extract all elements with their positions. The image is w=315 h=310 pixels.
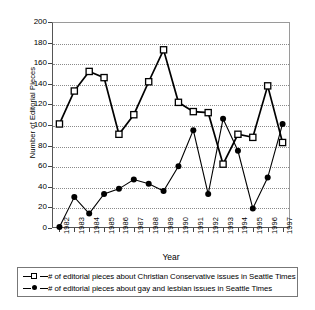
x-axis-tick-label: 1988	[152, 217, 160, 234]
filled-circle-marker-icon	[22, 282, 48, 294]
gridline	[53, 147, 289, 148]
y-axis-tick	[48, 166, 52, 167]
x-axis-tick-label: 1995	[256, 217, 264, 234]
y-axis-tick	[48, 125, 52, 126]
y-axis-tick	[48, 228, 52, 229]
y-axis-tick	[48, 22, 52, 23]
x-axis-tick-label: 1985	[108, 217, 116, 234]
gridline	[53, 208, 289, 209]
y-axis-tick-label: 200	[7, 18, 47, 26]
plot-area	[52, 22, 290, 228]
x-axis-tick	[238, 228, 239, 232]
gridline	[53, 167, 289, 168]
x-axis-tick	[283, 228, 284, 232]
y-axis-tick-label: 60	[7, 162, 47, 170]
editorial-pieces-line-chart: Number of Editorial Pieces 2001801601401…	[0, 0, 315, 310]
x-axis-tick-label: 1994	[241, 217, 249, 234]
legend-item-gay-lesbian: # of editorial pieces about gay and lesb…	[22, 282, 293, 294]
x-axis-tick-label: 1989	[167, 217, 175, 234]
x-axis-tick	[208, 228, 209, 232]
x-axis-tick-label: 1987	[137, 217, 145, 234]
x-axis-tick-label: 1990	[182, 217, 190, 234]
x-axis-tick-label: 1984	[93, 217, 101, 234]
x-axis-tick-label: 1993	[227, 217, 235, 234]
y-axis-tick-label: 140	[7, 80, 47, 88]
x-axis-tick	[74, 228, 75, 232]
x-axis-tick-label: 1996	[271, 217, 279, 234]
gridline	[53, 85, 289, 86]
y-axis-tick-label: 100	[7, 121, 47, 129]
x-axis-tick-label: 1983	[78, 217, 86, 234]
x-axis-title: Year	[52, 252, 290, 262]
x-axis-tick-label: 1992	[212, 217, 220, 234]
y-axis-tick-label: 80	[7, 142, 47, 150]
y-axis-tick	[48, 146, 52, 147]
y-axis-tick-label: 120	[7, 100, 47, 108]
x-axis-tick-label: 1997	[286, 217, 294, 234]
y-axis-tick-label: 180	[7, 39, 47, 47]
y-axis-tick	[48, 187, 52, 188]
open-square-marker-icon	[22, 270, 48, 282]
x-axis-tick	[193, 228, 194, 232]
x-axis-tick	[164, 228, 165, 232]
legend-item-christian-conservative: # of editorial pieces about Christian Co…	[22, 270, 293, 282]
gridline	[53, 105, 289, 106]
x-axis-tick	[119, 228, 120, 232]
y-axis-tick	[48, 84, 52, 85]
y-axis-tick	[48, 104, 52, 105]
y-axis-tick	[48, 207, 52, 208]
x-axis-tick	[268, 228, 269, 232]
y-axis-tick-label: 20	[7, 203, 47, 211]
y-axis-tick	[48, 63, 52, 64]
x-axis-tick	[149, 228, 150, 232]
legend-label: # of editorial pieces about Christian Co…	[48, 272, 296, 281]
x-axis-tick	[178, 228, 179, 232]
x-axis-tick	[134, 228, 135, 232]
x-axis-tick	[253, 228, 254, 232]
x-axis-tick	[89, 228, 90, 232]
gridline	[53, 126, 289, 127]
gridline	[53, 64, 289, 65]
x-axis-tick-label: 1982	[63, 217, 71, 234]
y-axis-tick-label: 0	[7, 224, 47, 232]
gridline	[53, 188, 289, 189]
x-axis-tick-label: 1991	[197, 217, 205, 234]
legend-label: # of editorial pieces about gay and lesb…	[48, 284, 272, 293]
x-axis-tick	[59, 228, 60, 232]
gridline	[53, 44, 289, 45]
y-axis-tick-label: 40	[7, 183, 47, 191]
x-axis-tick	[104, 228, 105, 232]
x-axis-tick-label: 1986	[122, 217, 130, 234]
y-axis-tick	[48, 43, 52, 44]
x-axis-tick	[223, 228, 224, 232]
chart-legend: # of editorial pieces about Christian Co…	[17, 267, 298, 297]
y-axis-title: Number of Editorial Pieces	[28, 23, 37, 203]
y-axis-tick-label: 160	[7, 59, 47, 67]
